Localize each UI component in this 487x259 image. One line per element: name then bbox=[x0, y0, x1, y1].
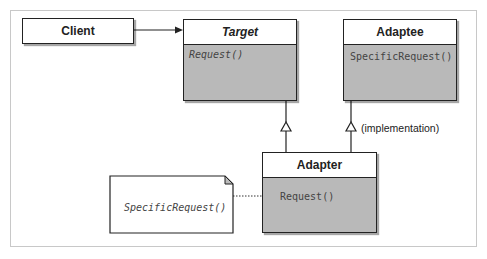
class-target: Target Request() bbox=[183, 19, 297, 101]
class-adapter-operations: Request() bbox=[263, 178, 376, 232]
class-adapter-name: Adapter bbox=[263, 153, 376, 178]
note-text: SpecificRequest() bbox=[124, 202, 226, 213]
class-adaptee: Adaptee SpecificRequest() bbox=[343, 19, 457, 101]
class-target-name: Target bbox=[184, 20, 296, 45]
operation-specific-request: SpecificRequest() bbox=[350, 51, 452, 62]
class-adapter: Adapter Request() bbox=[262, 152, 377, 233]
class-adaptee-operations: SpecificRequest() bbox=[344, 45, 456, 100]
class-client: Client bbox=[22, 18, 134, 44]
note: SpecificRequest() bbox=[110, 176, 233, 233]
operation-request: Request() bbox=[280, 191, 334, 202]
operation-request: Request() bbox=[189, 49, 243, 60]
class-client-name: Client bbox=[23, 19, 133, 43]
class-target-operations: Request() bbox=[184, 45, 296, 100]
implementation-label: (implementation) bbox=[361, 122, 439, 134]
class-adaptee-name: Adaptee bbox=[344, 20, 456, 45]
